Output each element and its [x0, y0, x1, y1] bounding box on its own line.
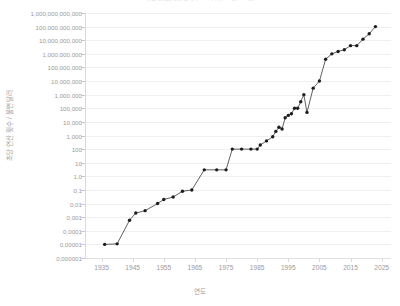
data-point[interactable]: [249, 147, 252, 150]
data-point[interactable]: [156, 202, 159, 205]
data-point[interactable]: [318, 79, 321, 82]
data-point[interactable]: [171, 195, 174, 198]
data-point[interactable]: [343, 48, 346, 51]
data-point[interactable]: [293, 107, 296, 110]
data-point[interactable]: [311, 86, 314, 89]
data-point[interactable]: [255, 147, 258, 150]
data-point[interactable]: [190, 188, 193, 191]
data-point[interactable]: [305, 111, 308, 114]
y-axis-title: 초당 연산 횟수 / 불변 달러: [4, 60, 14, 190]
data-point[interactable]: [215, 168, 218, 171]
data-point[interactable]: [324, 58, 327, 61]
data-point[interactable]: [280, 127, 283, 130]
chart-root: 1950년 이후 컴퓨팅 성능의 증가 1,000,000,000,000100…: [0, 0, 400, 306]
data-point[interactable]: [231, 147, 234, 150]
data-point[interactable]: [374, 25, 377, 28]
data-point[interactable]: [128, 218, 131, 221]
data-point[interactable]: [283, 116, 286, 119]
data-point[interactable]: [181, 190, 184, 193]
data-point[interactable]: [103, 243, 106, 246]
data-point[interactable]: [290, 112, 293, 115]
data-point[interactable]: [134, 211, 137, 214]
data-point[interactable]: [115, 242, 118, 245]
data-point[interactable]: [355, 44, 358, 47]
data-point[interactable]: [203, 168, 206, 171]
data-point[interactable]: [277, 126, 280, 129]
data-point[interactable]: [162, 198, 165, 201]
data-point[interactable]: [296, 107, 299, 110]
data-point[interactable]: [349, 44, 352, 47]
data-point[interactable]: [287, 114, 290, 117]
x-axis-title: 연도: [0, 286, 400, 296]
data-point[interactable]: [299, 100, 302, 103]
data-point[interactable]: [271, 135, 274, 138]
data-point[interactable]: [259, 143, 262, 146]
data-point[interactable]: [240, 147, 243, 150]
data-point[interactable]: [361, 37, 364, 40]
data-point[interactable]: [143, 209, 146, 212]
data-series-layer: [0, 0, 400, 306]
data-point[interactable]: [330, 52, 333, 55]
data-point[interactable]: [302, 93, 305, 96]
data-point[interactable]: [368, 32, 371, 35]
data-point[interactable]: [224, 168, 227, 171]
data-point[interactable]: [274, 130, 277, 133]
data-point[interactable]: [265, 139, 268, 142]
data-point[interactable]: [336, 50, 339, 53]
